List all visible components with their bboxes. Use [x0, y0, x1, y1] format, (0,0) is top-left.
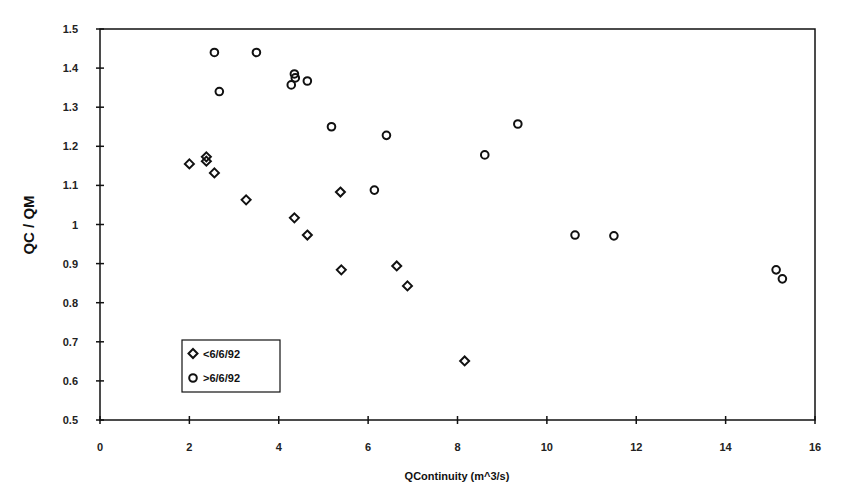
diamond-marker-icon: [210, 168, 219, 177]
circle-marker-icon: [772, 266, 780, 274]
legend-label: <6/6/92: [203, 348, 240, 360]
y-tick-label: 1.4: [63, 62, 79, 74]
circle-marker-icon: [216, 88, 224, 96]
x-axis-ticks: 0246810121416: [97, 416, 821, 453]
diamond-marker-icon: [185, 159, 194, 168]
x-tick-label: 2: [186, 441, 192, 453]
y-axis-ticks: 0.50.60.70.80.911.11.21.31.41.5: [63, 23, 104, 426]
y-tick-label: 1: [72, 219, 78, 231]
x-tick-label: 16: [809, 441, 821, 453]
circle-marker-icon: [779, 275, 787, 283]
x-tick-label: 8: [454, 441, 460, 453]
x-axis-title: QContinuity (m^3/s): [405, 470, 510, 482]
x-tick-label: 0: [97, 441, 103, 453]
diamond-marker-icon: [303, 231, 312, 240]
circle-marker-icon: [514, 120, 522, 128]
y-tick-label: 0.6: [63, 375, 78, 387]
diamond-marker-icon: [242, 195, 251, 204]
circle-marker-icon: [371, 186, 379, 194]
y-tick-label: 1.5: [63, 23, 78, 35]
legend: <6/6/92 >6/6/92: [182, 340, 280, 392]
circle-marker-icon: [481, 151, 489, 159]
x-tick-label: 12: [630, 441, 642, 453]
circle-marker-icon: [304, 77, 312, 85]
legend-label: >6/6/92: [203, 372, 240, 384]
scatter-chart: 0.50.60.70.80.911.11.21.31.41.5 02468101…: [0, 0, 859, 504]
diamond-marker-icon: [460, 356, 469, 365]
circle-marker-icon: [571, 231, 579, 239]
diamond-marker-icon: [337, 265, 346, 274]
diamond-marker-icon: [290, 213, 299, 222]
circle-marker-icon: [253, 49, 261, 57]
diamond-marker-icon: [336, 188, 345, 197]
y-tick-label: 1.1: [63, 179, 78, 191]
y-tick-label: 0.9: [63, 258, 78, 270]
y-tick-label: 0.7: [63, 336, 78, 348]
x-tick-label: 10: [541, 441, 553, 453]
x-tick-label: 4: [276, 441, 283, 453]
diamond-marker-icon: [403, 281, 412, 290]
y-axis-title: QC / QM: [20, 195, 37, 254]
circle-marker-icon: [211, 49, 219, 57]
x-tick-label: 6: [365, 441, 371, 453]
circle-marker-icon: [328, 123, 336, 131]
circle-marker-icon: [610, 232, 618, 240]
y-tick-label: 1.3: [63, 101, 78, 113]
circle-marker-icon: [287, 81, 295, 89]
data-points: [185, 49, 786, 366]
y-tick-label: 1.2: [63, 140, 78, 152]
x-tick-label: 14: [720, 441, 733, 453]
circle-marker-icon: [383, 132, 391, 140]
diamond-marker-icon: [392, 261, 401, 270]
y-tick-label: 0.5: [63, 414, 78, 426]
y-tick-label: 0.8: [63, 297, 78, 309]
